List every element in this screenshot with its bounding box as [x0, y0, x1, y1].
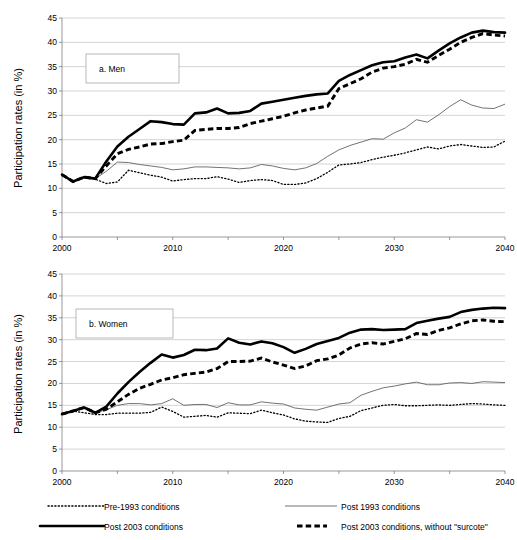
men-chart-svg: Participation rates (in %) 0510152025303… [0, 0, 517, 262]
y-tick-label: 10 [48, 183, 58, 193]
y-tick-label: 40 [48, 37, 58, 47]
x-tick-label: 2040 [496, 477, 515, 487]
legend-label: Post 2003 conditions, without "surcote" [341, 522, 488, 532]
figure-legend: Pre-1993 conditionsPost 1993 conditionsP… [0, 494, 517, 540]
x-tick-label: 2000 [53, 243, 72, 253]
legend-label: Post 2003 conditions [104, 522, 183, 532]
y-tick-label: 25 [48, 357, 58, 367]
legend-item-pre1993[interactable]: Pre-1993 conditions [48, 502, 180, 512]
series-line [62, 100, 505, 182]
y-tick-label: 5 [52, 208, 57, 218]
y-tick-label: 0 [52, 466, 57, 476]
y-axis-title: Participation rates (in %) [12, 68, 24, 188]
y-tick-label: 40 [48, 291, 58, 301]
y-axis-title: Participation rates (in %) [12, 314, 24, 434]
legend-label: Post 1993 conditions [341, 502, 420, 512]
series-line [62, 382, 505, 414]
y-tick-label: 25 [48, 110, 58, 120]
y-tick-label: 10 [48, 422, 58, 432]
y-tick-label: 35 [48, 62, 58, 72]
y-tick-label: 30 [48, 86, 58, 96]
x-tick-label: 2020 [274, 243, 293, 253]
x-tick-label: 2020 [274, 477, 293, 487]
women-chart-svg: Participation rates (in %) 0510152025303… [0, 262, 517, 494]
chart-panel-men: Participation rates (in %) 0510152025303… [0, 0, 517, 262]
figure-container: Participation rates (in %) 0510152025303… [0, 0, 517, 540]
panel-tag-label: a. Men [99, 64, 125, 74]
x-tick-label: 2030 [385, 243, 404, 253]
x-tick-label: 2010 [163, 243, 182, 253]
legend-item-post1993[interactable]: Post 1993 conditions [285, 502, 420, 512]
panel-tag-box-women: b. Women [76, 309, 173, 338]
y-tick-label: 0 [52, 232, 57, 242]
y-tick-label: 20 [48, 378, 58, 388]
series-line [62, 31, 505, 182]
y-tick-label: 15 [48, 400, 58, 410]
y-axis-ticks: 051015202530354045 [48, 13, 62, 242]
y-tick-label: 5 [52, 444, 57, 454]
chart-panel-women: Participation rates (in %) 0510152025303… [0, 262, 517, 494]
legend-item-post2003[interactable]: Post 2003 conditions [40, 522, 183, 532]
legend-item-post2003_nosurcote[interactable]: Post 2003 conditions, without "surcote" [297, 522, 488, 532]
y-tick-label: 45 [48, 269, 58, 279]
legend-label: Pre-1993 conditions [104, 502, 180, 512]
panel-tag-label: b. Women [89, 319, 128, 329]
x-axis-ticks: 20002010202020302040 [53, 471, 515, 487]
x-axis-ticks: 20002010202020302040 [53, 237, 515, 253]
legend-svg: Pre-1993 conditionsPost 1993 conditionsP… [0, 494, 517, 540]
series-line [62, 404, 505, 423]
x-tick-label: 2040 [496, 243, 515, 253]
x-tick-label: 2030 [385, 477, 404, 487]
y-tick-label: 45 [48, 13, 58, 23]
x-tick-label: 2000 [53, 477, 72, 487]
y-tick-label: 20 [48, 135, 58, 145]
y-tick-label: 35 [48, 313, 58, 323]
y-tick-label: 30 [48, 335, 58, 345]
gridlines [62, 274, 505, 471]
panel-tag-box-men: a. Men [86, 54, 179, 83]
legend-entries: Pre-1993 conditionsPost 1993 conditionsP… [40, 502, 488, 532]
y-axis-ticks: 051015202530354045 [48, 269, 62, 476]
x-tick-label: 2010 [163, 477, 182, 487]
y-tick-label: 15 [48, 159, 58, 169]
